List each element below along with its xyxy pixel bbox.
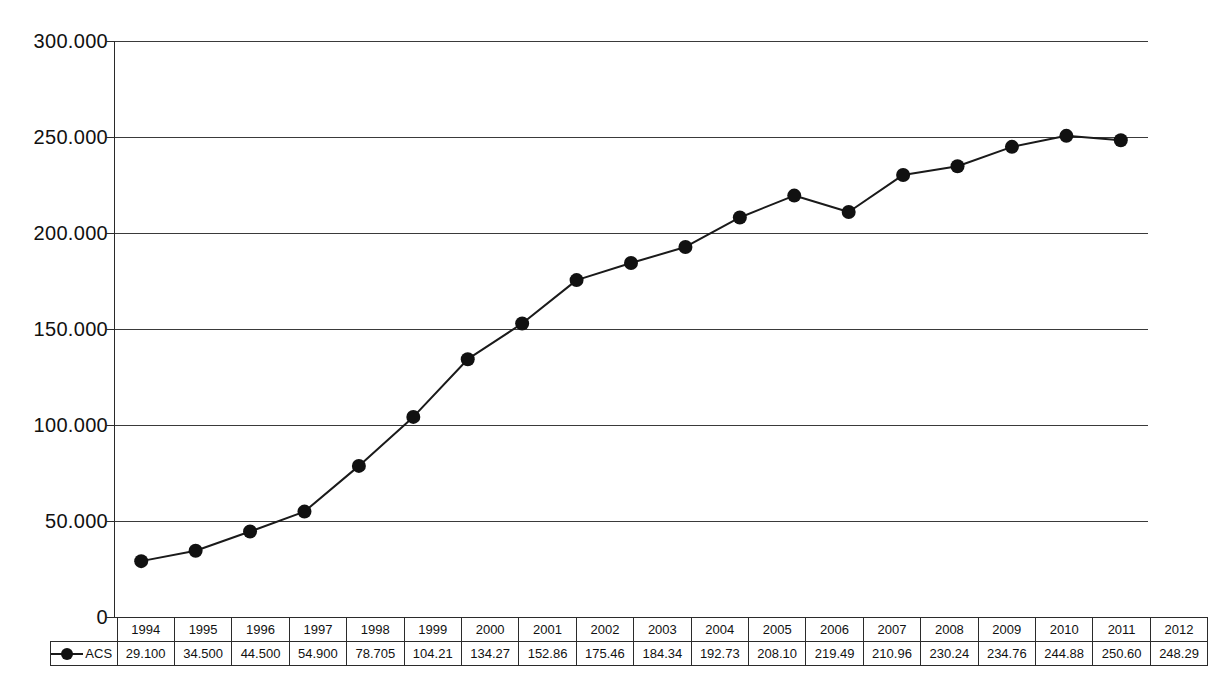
table-value-2004: 192.73 bbox=[691, 642, 748, 666]
table-value-1998: 78.705 bbox=[347, 642, 404, 666]
table-year-2002: 2002 bbox=[576, 618, 633, 642]
data-point-2011 bbox=[1059, 129, 1073, 143]
series-line-acs bbox=[141, 136, 1121, 561]
table-value-2009: 234.76 bbox=[978, 642, 1035, 666]
data-point-1997 bbox=[297, 505, 311, 519]
data-point-1996 bbox=[243, 525, 257, 539]
data-point-1995 bbox=[189, 544, 203, 558]
table-value-2002: 175.46 bbox=[576, 642, 633, 666]
data-table: 1994199519961997199819992000200120022003… bbox=[50, 617, 1208, 666]
table-value-2010: 244.88 bbox=[1036, 642, 1093, 666]
series-acs bbox=[114, 41, 1148, 617]
data-point-2006 bbox=[787, 189, 801, 203]
table-value-2001: 152.86 bbox=[519, 642, 576, 666]
table-year-2005: 2005 bbox=[748, 618, 805, 642]
legend-acs[interactable]: ACS bbox=[51, 642, 118, 666]
table-value-2008: 230.24 bbox=[921, 642, 978, 666]
table-row-values: ACS 29.10034.50044.50054.90078.705104.21… bbox=[51, 642, 1208, 666]
table-corner-blank bbox=[51, 618, 118, 642]
table-value-1999: 104.21 bbox=[404, 642, 461, 666]
data-point-2002 bbox=[570, 273, 584, 287]
table-year-1997: 1997 bbox=[289, 618, 346, 642]
table-year-1998: 1998 bbox=[347, 618, 404, 642]
table-year-1994: 1994 bbox=[117, 618, 174, 642]
table-value-2000: 134.27 bbox=[461, 642, 518, 666]
table-value-2011: 250.60 bbox=[1093, 642, 1150, 666]
data-point-1999 bbox=[406, 410, 420, 424]
y-tick-label-200.000: 200.000 bbox=[0, 223, 108, 243]
y-tick-mark-200.000 bbox=[106, 233, 115, 234]
table-year-2011: 2011 bbox=[1093, 618, 1150, 642]
table-year-1999: 1999 bbox=[404, 618, 461, 642]
table-year-2006: 2006 bbox=[806, 618, 863, 642]
table-value-2006: 219.49 bbox=[806, 642, 863, 666]
table-year-2009: 2009 bbox=[978, 618, 1035, 642]
table-value-2012: 248.29 bbox=[1150, 642, 1207, 666]
table-value-2007: 210.96 bbox=[863, 642, 920, 666]
y-tick-mark-100.000 bbox=[106, 425, 115, 426]
y-tick-mark-300.000 bbox=[106, 41, 115, 42]
data-point-1998 bbox=[352, 459, 366, 473]
data-point-2000 bbox=[461, 352, 475, 366]
data-point-1994 bbox=[134, 554, 148, 568]
y-tick-label-150.000: 150.000 bbox=[0, 319, 108, 339]
plot-area bbox=[114, 41, 1148, 617]
data-point-2003 bbox=[624, 256, 638, 270]
data-point-2009 bbox=[951, 159, 965, 173]
data-point-2012 bbox=[1114, 133, 1128, 147]
data-point-2004 bbox=[678, 240, 692, 254]
y-tick-label-100.000: 100.000 bbox=[0, 415, 108, 435]
table-value-1997: 54.900 bbox=[289, 642, 346, 666]
y-tick-mark-50.000 bbox=[106, 521, 115, 522]
y-tick-mark-150.000 bbox=[106, 329, 115, 330]
table-year-1996: 1996 bbox=[232, 618, 289, 642]
data-point-2008 bbox=[896, 168, 910, 182]
table-year-2004: 2004 bbox=[691, 618, 748, 642]
table-value-2003: 184.34 bbox=[634, 642, 691, 666]
table-value-2005: 208.10 bbox=[748, 642, 805, 666]
y-tick-label-300.000: 300.000 bbox=[0, 31, 108, 51]
table-year-2001: 2001 bbox=[519, 618, 576, 642]
table-value-1996: 44.500 bbox=[232, 642, 289, 666]
y-tick-mark-0 bbox=[106, 617, 115, 618]
data-point-2001 bbox=[515, 317, 529, 331]
y-tick-mark-250.000 bbox=[106, 137, 115, 138]
data-point-2010 bbox=[1005, 140, 1019, 154]
table-year-2012: 2012 bbox=[1150, 618, 1207, 642]
data-point-2005 bbox=[733, 210, 747, 224]
table-row-years: 1994199519961997199819992000200120022003… bbox=[51, 618, 1208, 642]
y-axis-labels: 050.000100.000150.000200.000250.000300.0… bbox=[0, 0, 108, 693]
table-year-2003: 2003 bbox=[634, 618, 691, 642]
table-year-2008: 2008 bbox=[921, 618, 978, 642]
y-tick-label-50.000: 50.000 bbox=[0, 511, 108, 531]
legend-marker-icon bbox=[51, 647, 83, 661]
legend-label: ACS bbox=[85, 646, 112, 661]
y-tick-label-250.000: 250.000 bbox=[0, 127, 108, 147]
table-value-1995: 34.500 bbox=[174, 642, 231, 666]
table-value-1994: 29.100 bbox=[117, 642, 174, 666]
table-year-1995: 1995 bbox=[174, 618, 231, 642]
table-year-2007: 2007 bbox=[863, 618, 920, 642]
data-point-2007 bbox=[842, 205, 856, 219]
table-year-2000: 2000 bbox=[461, 618, 518, 642]
table-year-2010: 2010 bbox=[1036, 618, 1093, 642]
